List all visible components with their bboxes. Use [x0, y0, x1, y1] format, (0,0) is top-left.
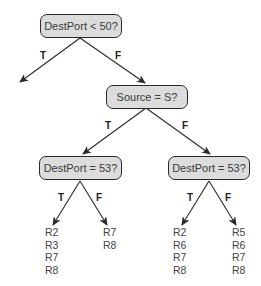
leaf-rule: R7	[232, 251, 245, 264]
tree-edges	[0, 0, 261, 286]
leaf-rule: R5	[232, 226, 245, 239]
edge-source-true	[83, 108, 146, 154]
edge-label-root-true: T	[40, 50, 46, 61]
leaf-rule: R3	[45, 239, 58, 252]
edge-label-left-true: T	[58, 192, 64, 203]
leaf-left-false: R7 R8	[103, 226, 116, 251]
edge-root-true	[20, 38, 80, 82]
leaf-rule: R7	[103, 226, 116, 239]
node-root: DestPort < 50?	[40, 14, 122, 38]
edge-label-right-false: F	[225, 192, 231, 203]
node-source: Source = S?	[106, 85, 188, 109]
edge-label-right-true: T	[187, 192, 193, 203]
edge-root-false	[80, 38, 145, 83]
edge-right-true	[182, 181, 209, 225]
leaf-right-false: R5 R6 R7 R8	[232, 226, 245, 277]
edge-left-true	[53, 181, 80, 225]
leaf-rule: R7	[45, 251, 58, 264]
leaf-rule: R8	[45, 264, 58, 277]
leaf-rule: R2	[173, 226, 186, 239]
leaf-rule: R8	[173, 264, 186, 277]
leaf-rule: R2	[45, 226, 58, 239]
leaf-rule: R6	[173, 239, 186, 252]
leaf-right-true: R2 R6 R7 R8	[173, 226, 186, 277]
node-right-dest: DestPort = 53?	[168, 156, 250, 180]
leaf-rule: R8	[103, 239, 116, 252]
leaf-rule: R7	[173, 251, 186, 264]
leaf-rule: R8	[232, 264, 245, 277]
edge-source-false	[146, 108, 210, 154]
leaf-rule: R6	[232, 239, 245, 252]
edge-label-root-false: F	[115, 50, 121, 61]
edge-label-left-false: F	[96, 192, 102, 203]
leaf-left-true: R2 R3 R7 R8	[45, 226, 58, 277]
edge-left-false	[80, 181, 107, 225]
edge-label-source-false: F	[182, 120, 188, 131]
node-left-dest: DestPort = 53?	[39, 156, 122, 180]
edge-label-source-true: T	[105, 120, 111, 131]
edge-right-false	[209, 181, 236, 225]
